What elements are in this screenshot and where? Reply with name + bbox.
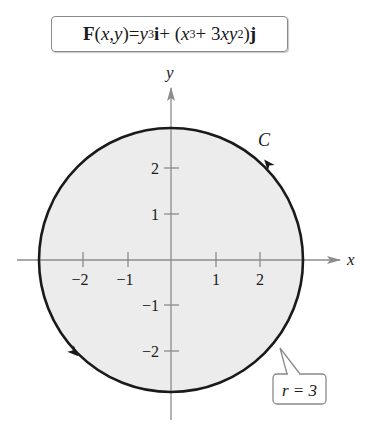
x-tick-label: 1 xyxy=(212,271,220,288)
y-axis-label: y xyxy=(164,63,174,82)
x-tick-label: −1 xyxy=(116,271,133,288)
y-tick-label: 2 xyxy=(151,160,159,177)
radius-label: r = 3 xyxy=(282,381,317,400)
y-tick-label: 1 xyxy=(151,206,159,223)
y-tick-label: −2 xyxy=(142,343,159,360)
y-tick-label: −1 xyxy=(142,297,159,314)
x-axis-label: x xyxy=(346,250,355,269)
circle-diagram: −2 −1 1 2 2 1 −1 −2 x y C r = 3 xyxy=(0,0,379,437)
radius-callout: r = 3 xyxy=(273,348,326,404)
x-tick-label: 2 xyxy=(256,271,264,288)
x-tick-label: −2 xyxy=(71,271,88,288)
curve-label-C: C xyxy=(258,130,271,150)
